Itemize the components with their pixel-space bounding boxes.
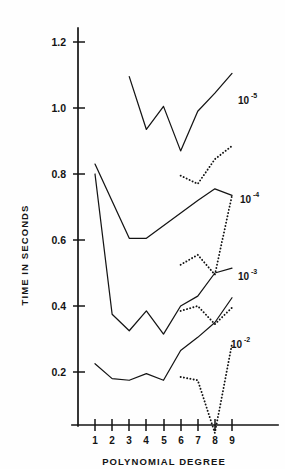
series-curve-10-4-solid (95, 164, 232, 238)
y-tick-label-6: 0.2 (51, 366, 66, 378)
x-tick-label-4: 4 (143, 435, 149, 446)
x-tick-label-6: 6 (178, 435, 184, 446)
series-layer (95, 73, 232, 433)
y-tick-label-3: 0.8 (51, 168, 66, 180)
series-curve-10-3-solid (95, 174, 232, 334)
series-curve-10-2-dotted (181, 344, 232, 433)
x-tick-label-9: 9 (229, 435, 235, 446)
series-annotation-10e-4: 10 -4 (240, 191, 259, 205)
y-tick-marks (73, 42, 85, 372)
x-tick-label-3: 3 (126, 435, 132, 446)
series-curve-10-2-solid (95, 298, 232, 381)
series-label-exp-3: -3 (251, 268, 257, 275)
y-tick-label-1: 1.2 (51, 36, 66, 48)
series-annotation-10e-3: 10 -3 (238, 268, 257, 282)
series-annotation-10e-2: 10 -2 (231, 336, 250, 350)
series-curve-10-5-solid (129, 73, 232, 151)
chart-container: 1.2 1.0 0.8 0.6 0.4 0.2 1 2 3 4 5 6 7 8 … (0, 0, 285, 469)
series-label-exp-4: -2 (244, 336, 250, 343)
series-label-base-2: 10 (240, 194, 252, 205)
x-tick-label-5: 5 (161, 435, 167, 446)
series-curve-10-5-dotted (181, 146, 232, 184)
y-tick-label-2: 1.0 (51, 102, 66, 114)
series-annotation-10e-5: 10 -5 (238, 92, 257, 106)
x-tick-label-1: 1 (92, 435, 98, 446)
chart-plot-area: 1.2 1.0 0.8 0.6 0.4 0.2 1 2 3 4 5 6 7 8 … (0, 0, 285, 469)
y-axis-title: TIME IN SECONDS (19, 205, 30, 306)
series-label-base-4: 10 (231, 339, 243, 350)
series-label-exp-1: -5 (251, 92, 257, 99)
series-label-exp-2: -4 (253, 191, 259, 198)
y-tick-label-5: 0.4 (51, 300, 66, 312)
x-axis-title: POLYNOMIAL DEGREE (102, 456, 226, 467)
y-tick-label-4: 0.6 (51, 234, 66, 246)
x-tick-label-8: 8 (212, 435, 218, 446)
x-tick-label-7: 7 (195, 435, 201, 446)
series-label-base-1: 10 (238, 95, 250, 106)
series-label-base-3: 10 (238, 271, 250, 282)
x-tick-label-2: 2 (109, 435, 115, 446)
